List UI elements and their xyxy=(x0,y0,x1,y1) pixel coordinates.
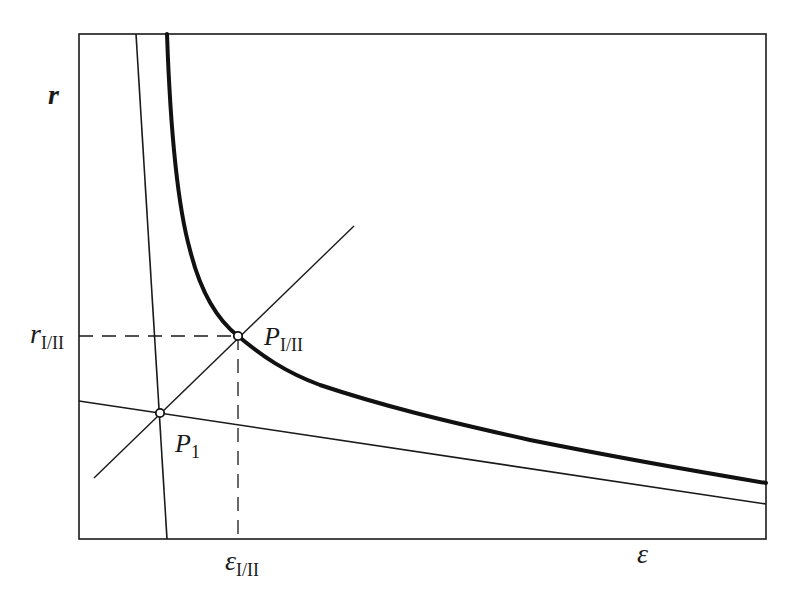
point-pI_II-marker xyxy=(234,332,242,340)
eps-tick-label: εI/II xyxy=(225,545,259,580)
point-pI_II-label: PI/II xyxy=(263,322,303,355)
steep-line xyxy=(136,34,167,539)
point-p1-label: P1 xyxy=(174,429,200,462)
point-p1-marker xyxy=(156,409,164,417)
diagonal-line xyxy=(94,226,354,478)
thick-curve xyxy=(167,34,766,483)
y-axis-label: r xyxy=(48,79,60,110)
r-tick-label: rI/II xyxy=(30,318,64,353)
diagram-canvas: r rI/II PI/II P1 εI/II ε xyxy=(0,0,797,607)
x-axis-label: ε xyxy=(637,538,648,569)
